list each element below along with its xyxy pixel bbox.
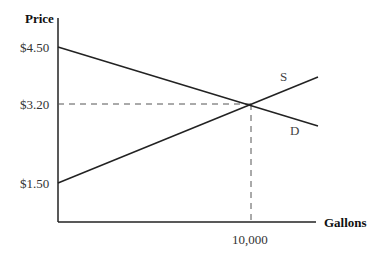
supply-curve bbox=[58, 77, 318, 183]
y-axis-title: Price bbox=[25, 11, 54, 26]
y-tick-label: $3.20 bbox=[20, 97, 49, 112]
x-tick-label: 10,000 bbox=[232, 232, 268, 247]
demand-curve bbox=[58, 47, 318, 126]
supply-demand-chart: Price Gallons $4.50 $3.20 $1.50 10,000 S… bbox=[0, 0, 382, 257]
demand-label: D bbox=[290, 123, 299, 138]
x-axis-title: Gallons bbox=[324, 215, 367, 230]
y-tick-label: $4.50 bbox=[20, 40, 49, 55]
supply-label: S bbox=[280, 69, 287, 84]
y-tick-label: $1.50 bbox=[20, 176, 49, 191]
